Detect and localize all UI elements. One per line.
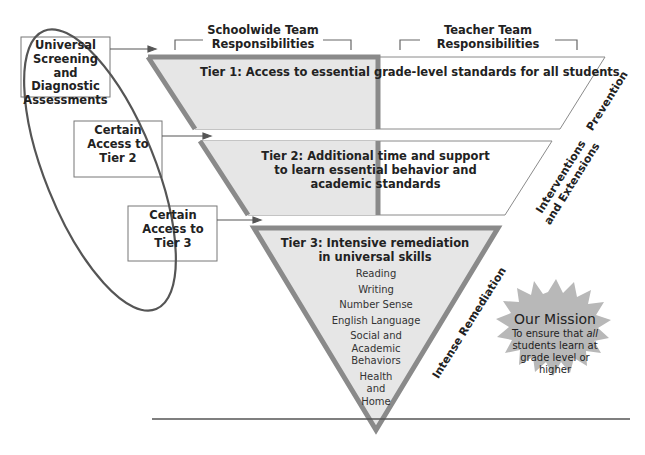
skill-item: Social and Academic Behaviors [333,330,419,368]
tier-3-title: Tier 3: Intensive remediation in univers… [280,237,470,265]
tier-2-title: Tier 2: Additional time and support to l… [258,150,493,191]
skill-item: Health and Home [351,371,401,409]
skill-item: Writing [316,284,436,297]
tier2-access-label: Certain Access to Tier 2 [74,124,162,165]
teacher-header: Teacher Team Responsibilities [420,24,556,52]
tier-3-title-line1: Tier 3: Intensive remediation [280,237,470,251]
skill-item: Number Sense [316,299,436,312]
screening-label: Universal Screening and Diagnostic Asses… [21,39,110,108]
mission-title: Our Mission [505,311,605,328]
skill-item: Reading [316,268,436,281]
skill-item: English Language [316,315,436,328]
mission-block: Our Mission To ensure that all students … [505,311,605,376]
mission-body: To ensure that all students learn at gra… [505,328,605,376]
schoolwide-header: Schoolwide Team Responsibilities [200,24,326,52]
tier3-access-label: Certain Access to Tier 3 [136,209,210,250]
tier-1-title: Tier 1: Access to essential grade-level … [200,66,560,80]
tier-3-title-line2: in universal skills [280,251,470,265]
tier-3-skills: Reading Writing Number Sense English Lan… [316,268,436,408]
